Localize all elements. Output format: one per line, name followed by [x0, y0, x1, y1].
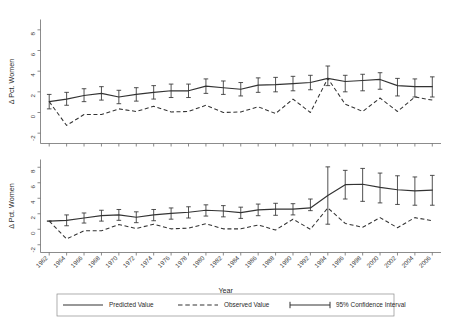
x-tick-label: 1982: [208, 254, 223, 269]
x-tick-label: 1990: [278, 254, 293, 269]
x-tick-label: 2002: [382, 254, 397, 269]
y-tick-label: -2: [29, 135, 36, 141]
x-tick-label: 2004: [400, 254, 415, 269]
y-tick-label: 2: [29, 215, 36, 219]
x-tick-label: 1962: [34, 254, 49, 269]
panel-bottom: -202468Δ Pct. Women196219641966196819701…: [7, 160, 441, 295]
chart-svg: -202468Δ Pct. Women -202468Δ Pct. Women1…: [0, 0, 449, 327]
y-axis-title: Δ Pct. Women: [7, 59, 16, 104]
x-tick-label: 1976: [156, 254, 171, 269]
x-tick-label: 1966: [69, 254, 84, 269]
x-tick-label: 1998: [348, 254, 363, 269]
y-tick-label: 4: [29, 73, 36, 77]
y-tick-label: 8: [29, 169, 36, 173]
x-tick-label: 1994: [313, 254, 328, 269]
x-tick-label: 2000: [365, 254, 380, 269]
x-tick-label: 1974: [139, 254, 154, 269]
chart-figure-root: -202468Δ Pct. Women -202468Δ Pct. Women1…: [0, 0, 449, 327]
x-tick-label: 1992: [295, 254, 310, 269]
chart-legend: Predicted ValueObserved Value95% Confide…: [57, 294, 406, 316]
y-tick-label: 2: [29, 93, 36, 97]
y-tick-label: 8: [29, 31, 36, 35]
y-tick-label: 0: [29, 114, 36, 118]
legend-label-1: Predicted Value: [109, 301, 154, 308]
panel-top: -202468Δ Pct. Women: [7, 20, 441, 147]
x-tick-label: 2006: [417, 254, 432, 269]
confidence-interval-group: [47, 66, 435, 109]
y-tick-label: 6: [29, 184, 36, 188]
x-tick-label: 1980: [191, 254, 206, 269]
y-axis-title: Δ Pct. Women: [7, 183, 16, 228]
legend-label-3: 95% Confidence Interval: [336, 301, 406, 308]
x-tick-label: 1988: [261, 254, 276, 269]
y-tick-label: 6: [29, 52, 36, 56]
x-tick-label: 1964: [52, 254, 67, 269]
x-tick-label: 1978: [174, 254, 189, 269]
x-tick-label: 1986: [243, 254, 258, 269]
x-tick-label: 1996: [330, 254, 345, 269]
y-tick-label: 0: [29, 231, 36, 235]
y-tick-label: -2: [29, 246, 36, 252]
confidence-interval-group: [47, 167, 435, 226]
x-axis-title: Year: [218, 286, 233, 295]
x-tick-label: 1984: [226, 254, 241, 269]
x-tick-label: 1972: [121, 254, 136, 269]
x-tick-label: 1968: [86, 254, 101, 269]
legend-label-2: Observed Value: [224, 301, 270, 308]
x-tick-label: 1970: [104, 254, 119, 269]
y-tick-label: 4: [29, 200, 36, 204]
